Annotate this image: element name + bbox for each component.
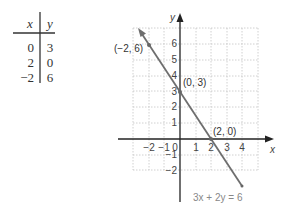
y-axis-arrow-icon: [177, 13, 184, 22]
svg-text:6: 6: [171, 38, 177, 49]
svg-text:5: 5: [171, 54, 177, 65]
svg-text:3: 3: [224, 142, 230, 153]
svg-text:1: 1: [171, 117, 177, 128]
svg-text:−2: −2: [166, 165, 178, 176]
point-4-neg3: [241, 185, 244, 188]
svg-text:4: 4: [239, 142, 245, 153]
coordinate-graph: x y 6 5 4 3 2 1 −1 −2 −2 −1 0 1 2 3 4 (−…: [0, 0, 290, 213]
point-label-2-0: (2, 0): [213, 126, 236, 137]
svg-text:−2: −2: [143, 142, 155, 153]
x-tick-labels: −2 −1 0 1 2 3 4: [143, 142, 245, 153]
point-0-3: [178, 90, 182, 94]
svg-text:2: 2: [171, 101, 177, 112]
line-arrow-icon: [138, 28, 146, 37]
point-neg2-6: [147, 43, 151, 47]
equation-label: 3x + 2y = 6: [193, 192, 243, 203]
point-label-neg2-6: (−2, 6): [114, 43, 143, 54]
svg-text:1: 1: [193, 142, 199, 153]
equation-line: [140, 31, 242, 186]
y-axis-label: y: [169, 12, 176, 23]
point-label-0-3: (0, 3): [183, 77, 206, 88]
svg-text:−1: −1: [158, 142, 170, 153]
x-axis-label: x: [269, 144, 276, 155]
x-axis-arrow-icon: [265, 136, 274, 143]
point-2-0: [209, 137, 213, 141]
svg-text:0: 0: [172, 142, 178, 153]
